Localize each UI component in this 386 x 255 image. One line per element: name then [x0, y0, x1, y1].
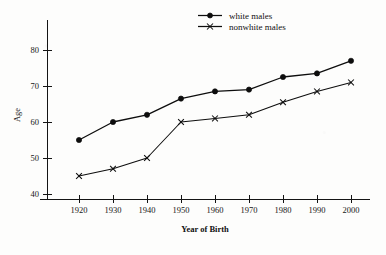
data-point-marker: [110, 119, 115, 124]
data-point-marker: [348, 58, 353, 63]
x-tick-label: 1970: [241, 205, 258, 215]
x-tick-label: 1930: [105, 205, 122, 215]
data-point-marker: [246, 87, 251, 92]
chart-figure: 4050607080 19201930194019501960197019801…: [0, 0, 386, 255]
data-point-marker: [178, 96, 183, 101]
data-point-marker: [144, 155, 150, 161]
x-axis-title: Year of Birth: [181, 224, 229, 234]
x-tick-label: 1990: [309, 205, 326, 215]
y-tick-label: 60: [31, 117, 40, 127]
x-tick-label: 1980: [275, 205, 292, 215]
legend-label-nonwhite-males: nonwhite males: [229, 22, 286, 32]
y-axis-ticks: 4050607080: [31, 45, 53, 199]
plot-series: [76, 58, 354, 179]
series-markers-nonwhite-males: [76, 80, 354, 179]
y-axis-title: Age: [12, 108, 22, 122]
data-point-marker: [76, 137, 81, 142]
line-chart-canvas: 4050607080 19201930194019501960197019801…: [0, 0, 386, 255]
x-tick-label: 1960: [207, 205, 224, 215]
data-point-marker: [280, 74, 285, 79]
x-axis-ticks: 192019301940195019601970198019902000: [71, 195, 360, 215]
data-point-marker: [280, 99, 286, 105]
legend-marker-filled-circle-icon: [208, 13, 213, 18]
x-tick-label: 1950: [173, 205, 190, 215]
y-tick-label: 50: [31, 153, 40, 163]
x-tick-label: 1920: [71, 205, 88, 215]
legend-label-white-males: white males: [229, 11, 273, 21]
x-tick-label: 2000: [343, 205, 360, 215]
series-line-nonwhite-males: [79, 82, 351, 176]
y-tick-label: 80: [31, 45, 40, 55]
data-point-marker: [144, 112, 149, 117]
series-line-white-males: [79, 61, 351, 140]
data-point-marker: [212, 89, 217, 94]
chart-legend: white males nonwhite males: [198, 11, 286, 32]
axis-spines: [40, 20, 370, 200]
x-tick-label: 1940: [139, 205, 156, 215]
series-markers-white-males: [76, 58, 353, 142]
data-point-marker: [314, 71, 319, 76]
y-tick-label: 70: [31, 81, 40, 91]
y-tick-label: 40: [31, 189, 40, 199]
